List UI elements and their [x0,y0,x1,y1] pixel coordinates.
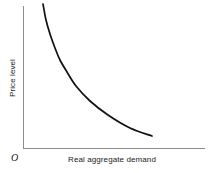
aggregate-demand-curve [43,4,152,136]
y-axis-label: Price level [8,59,17,97]
origin-label: O [11,152,18,163]
x-axis-label: Real aggregate demand [68,155,156,164]
aggregate-demand-chart: Price level Real aggregate demand O [0,0,216,173]
chart-canvas [0,0,216,173]
